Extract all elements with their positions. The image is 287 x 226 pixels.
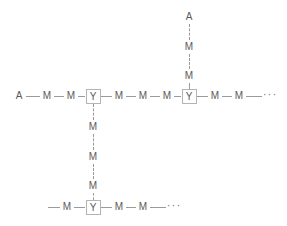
upper-branch-monomer-1: M <box>182 42 196 52</box>
bond-m5-to-y2 <box>174 96 181 97</box>
upper-branch-monomer-2: M <box>182 71 196 81</box>
bond-y2-to-m6 <box>197 96 208 97</box>
bond-m6-to-m7 <box>222 96 232 97</box>
main-chain-monomer-2: M <box>64 91 78 101</box>
bond-lower-m2-to-m3 <box>93 164 94 179</box>
bottom-chain-monomer-2: M <box>112 202 126 212</box>
bond-y1-to-m3 <box>101 96 112 97</box>
main-chain-monomer-6: M <box>208 91 222 101</box>
bond-lower-m1-to-m2 <box>93 134 94 150</box>
main-chain-junction-1: Y <box>86 89 101 104</box>
lower-branch-monomer-3: M <box>86 181 100 191</box>
diagram-canvas: A M M Y M M M Y M M ··· A M M M M M <box>0 0 287 226</box>
bond-m7-to-ellipsis <box>246 96 262 97</box>
bond-upper-m2-to-y <box>189 83 190 89</box>
lower-branch-monomer-2: M <box>86 152 100 162</box>
bond-lower-y-to-m1 <box>93 104 94 120</box>
bottom-chain-monomer-3: M <box>136 202 150 212</box>
bond-m4-to-m5 <box>150 96 160 97</box>
bond-m3-to-m4 <box>126 96 136 97</box>
bond-bottom-m2-to-m3 <box>126 207 136 208</box>
main-chain-junction-2: Y <box>182 89 197 104</box>
main-chain-monomer-7: M <box>232 91 246 101</box>
bond-upper-m1-to-m2 <box>189 54 190 69</box>
bond-m1-to-m2 <box>54 96 64 97</box>
bottom-chain-ellipsis: ··· <box>167 201 182 211</box>
main-chain-terminal-a: A <box>12 91 26 101</box>
bond-m2-to-y1 <box>78 96 85 97</box>
bond-upper-a-to-m1 <box>189 24 190 40</box>
lower-branch-monomer-1: M <box>86 122 100 132</box>
bond-bottom-m1-to-y <box>74 207 85 208</box>
bond-bottom-m3-to-ellipsis <box>150 207 166 208</box>
main-chain-monomer-4: M <box>136 91 150 101</box>
bond-a-to-m1 <box>26 96 40 97</box>
main-chain-monomer-1: M <box>40 91 54 101</box>
bond-bottom-y-to-m2 <box>101 207 112 208</box>
main-chain-ellipsis: ··· <box>263 90 278 100</box>
bottom-chain-lead-bond <box>48 207 60 208</box>
bottom-chain-monomer-1: M <box>60 202 74 212</box>
bottom-chain-junction: Y <box>86 200 101 215</box>
upper-branch-terminal-a: A <box>182 12 196 22</box>
main-chain-monomer-5: M <box>160 91 174 101</box>
main-chain-monomer-3: M <box>112 91 126 101</box>
